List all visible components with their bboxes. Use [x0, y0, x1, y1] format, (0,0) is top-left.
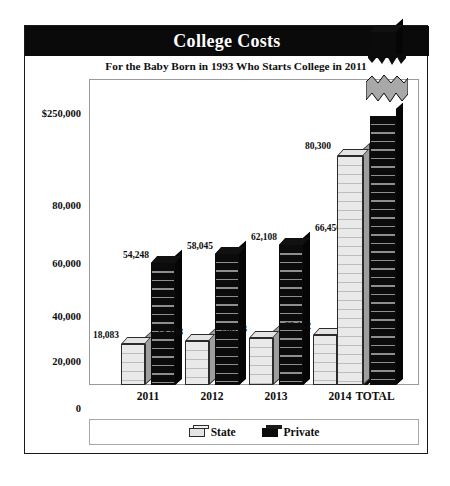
page-title: College Costs — [173, 31, 280, 52]
legend-swatch-state-icon — [189, 428, 205, 437]
value-label-state-2011: 18,083 — [75, 330, 119, 340]
bar-state-total — [337, 156, 363, 385]
bar-private-total-top — [370, 32, 396, 58]
bar-side — [396, 103, 403, 385]
bar-private-total — [370, 116, 396, 385]
bar-face — [185, 341, 209, 385]
y-axis-tick-40000: 40,000 — [0, 311, 81, 322]
x-axis-tick-total: TOTAL — [343, 390, 407, 402]
bar-state-2014 — [313, 335, 337, 385]
bar-private-2012 — [215, 254, 239, 385]
value-label-state-2012: 19,348 — [139, 327, 183, 337]
y-axis-tick-250000: $250,000 — [0, 108, 81, 119]
legend-label-private: Private — [284, 426, 320, 438]
y-axis-tick-80000: 80,000 — [0, 200, 81, 211]
legend-label-state: State — [211, 426, 236, 438]
chart-card: College Costs For the Baby Born in 1993 … — [24, 25, 428, 454]
bar-face — [337, 156, 363, 385]
bar-state-2012 — [185, 341, 209, 385]
bar-side — [239, 241, 246, 385]
bar-face — [370, 116, 396, 385]
bar-face — [151, 263, 175, 385]
value-label-private-2014: 66,456 — [297, 223, 341, 233]
bar-face — [249, 338, 273, 385]
value-label-state-total: 80,300 — [285, 141, 331, 151]
bar-private-2011 — [151, 263, 175, 385]
legend-swatch-private-icon — [262, 428, 278, 437]
value-label-state-2013: 20,703 — [203, 324, 247, 334]
bar-private-2013 — [279, 245, 303, 385]
bar-state-2013 — [249, 338, 273, 385]
y-axis-tick-0: 0 — [0, 403, 81, 414]
value-label-state-2014: 22,152 — [267, 321, 311, 331]
bar-face — [370, 32, 396, 58]
bar-face — [121, 344, 145, 385]
legend-entry-state: State — [189, 426, 236, 438]
value-label-private-2012: 58,045 — [169, 241, 213, 251]
chart-title-banner: College Costs — [25, 26, 429, 56]
bar-face — [215, 254, 239, 385]
bar-side — [363, 143, 370, 385]
bar-side — [175, 250, 182, 385]
legend-entry-private: Private — [262, 426, 320, 438]
value-label-private-2011: 54,248 — [105, 250, 149, 260]
value-label-private-2013: 62,108 — [233, 232, 277, 242]
bar-state-2011 — [121, 344, 145, 385]
chart-subtitle: For the Baby Born in 1993 Who Starts Col… — [25, 60, 429, 72]
bar-side — [303, 232, 310, 385]
chart-legend: State Private — [89, 419, 419, 445]
x-axis-tick-2012: 2012 — [180, 390, 244, 402]
bar-face — [279, 245, 303, 385]
y-axis-tick-20000: 20,000 — [0, 356, 81, 367]
x-axis-tick-2013: 2013 — [244, 390, 308, 402]
bar-face — [313, 335, 337, 385]
x-axis-tick-2011: 2011 — [116, 390, 180, 402]
y-axis-tick-60000: 60,000 — [0, 258, 81, 269]
